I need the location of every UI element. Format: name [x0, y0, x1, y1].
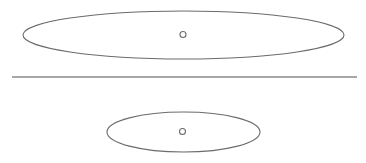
background: [0, 0, 366, 163]
diagram-canvas: [0, 0, 366, 163]
